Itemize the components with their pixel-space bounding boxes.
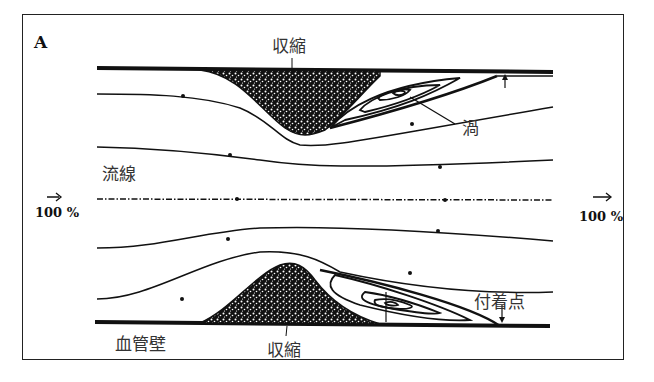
vortex-label: 渦 bbox=[462, 120, 479, 137]
center-line bbox=[97, 199, 553, 200]
panel-label: A bbox=[34, 32, 47, 52]
outlet-flow-value: 100 % bbox=[579, 209, 623, 224]
inlet-flow-value: 100 % bbox=[35, 205, 79, 220]
vessel-wall-label: 血管壁 bbox=[115, 336, 166, 353]
bottom-plaque bbox=[200, 263, 380, 324]
stenosis-label-bottom: 収縮 bbox=[267, 342, 301, 359]
streamline-2 bbox=[97, 147, 553, 166]
streamline-3 bbox=[97, 227, 553, 248]
stenosis-label-top: 収縮 bbox=[272, 38, 306, 55]
reattachment-point-label: 付着点 bbox=[474, 294, 525, 311]
top-plaque bbox=[200, 70, 380, 135]
flow-diagram bbox=[0, 0, 654, 382]
streamline-label: 流線 bbox=[102, 166, 136, 183]
